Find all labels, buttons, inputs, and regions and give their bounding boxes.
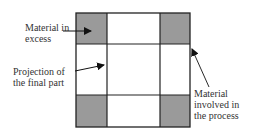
label-material-involved: Material involved in the process xyxy=(194,88,239,121)
arrow-projection xyxy=(75,65,104,71)
shaded-cell-bottom-right xyxy=(160,95,190,127)
label-projection-final-part: Projection of the final part xyxy=(13,66,65,88)
arrow-process xyxy=(192,49,209,87)
label-line: excess xyxy=(25,33,69,44)
shaded-cell-top-right xyxy=(160,13,190,44)
label-line: Projection of xyxy=(13,66,65,77)
label-line: Material in xyxy=(25,22,69,33)
shaded-cell-top-left xyxy=(76,13,107,44)
label-line: the final part xyxy=(13,77,65,88)
label-line: Material xyxy=(194,88,239,99)
shaded-cell-bottom-left xyxy=(76,95,107,127)
label-material-in-excess: Material in excess xyxy=(25,22,69,44)
label-line: involved in xyxy=(194,99,239,110)
label-line: the process xyxy=(194,110,239,121)
